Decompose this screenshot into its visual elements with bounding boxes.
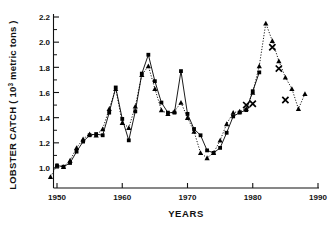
- series-line: [50, 23, 304, 177]
- y-tick-label: 1.4: [39, 114, 51, 123]
- x-axis-label: YEARS: [168, 208, 204, 219]
- series-solid-square-series: [55, 53, 261, 169]
- data-point-triangle: [218, 138, 223, 143]
- data-point-triangle: [276, 58, 281, 63]
- y-axis-label-post: metric tons ): [7, 20, 18, 82]
- data-point-square: [127, 138, 131, 142]
- x-tick-label: 1950: [48, 193, 66, 202]
- y-tick-label: 2.0: [39, 38, 51, 47]
- y-axis-label-pre: LOBSTER CATCH ( 10: [7, 87, 18, 190]
- data-point-triangle: [289, 86, 294, 91]
- data-point-square: [101, 133, 105, 137]
- data-point-square: [218, 146, 222, 150]
- y-axis-ticks: 1.01.21.41.61.82.02.2: [39, 13, 59, 173]
- data-point-triangle: [198, 150, 203, 155]
- data-point-triangle: [133, 104, 138, 109]
- x-tick-label: 1960: [113, 193, 131, 202]
- data-series-layer: [48, 21, 308, 179]
- data-point-square: [179, 69, 183, 73]
- x-tick-label: 1980: [244, 193, 262, 202]
- x-tick-label: 1990: [309, 193, 327, 202]
- y-tick-label: 2.2: [39, 13, 51, 22]
- data-point-triangle: [224, 121, 229, 126]
- data-point-square: [107, 111, 111, 115]
- data-point-cross: [250, 101, 256, 107]
- y-tick-label: 1.0: [39, 164, 51, 173]
- axes-lines: [54, 14, 320, 188]
- data-point-triangle: [231, 110, 236, 115]
- lobster-catch-line-chart: LOBSTER CATCH ( 103 metric tons ) 1.01.2…: [0, 0, 334, 227]
- data-point-cross: [269, 44, 275, 50]
- x-tick-label: 1970: [179, 193, 197, 202]
- data-point-triangle: [159, 108, 164, 113]
- data-point-triangle: [296, 106, 301, 111]
- chart-figure: LOBSTER CATCH ( 103 metric tons ) 1.01.2…: [0, 0, 334, 227]
- data-point-triangle: [257, 63, 262, 68]
- y-tick-label: 1.6: [39, 89, 51, 98]
- data-point-triangle: [146, 63, 151, 68]
- x-axis-ticks: 19501960197019801990: [48, 183, 327, 202]
- data-point-square: [225, 131, 229, 135]
- data-point-square: [146, 53, 150, 57]
- data-point-triangle: [48, 174, 53, 179]
- data-point-cross: [282, 97, 288, 103]
- y-tick-label: 1.2: [39, 139, 51, 148]
- y-axis-label: LOBSTER CATCH ( 103 metric tons ): [7, 20, 19, 189]
- data-point-square: [160, 101, 164, 105]
- series-dotted-triangle-series: [48, 21, 308, 179]
- data-point-triangle: [178, 100, 183, 105]
- data-point-cross: [276, 65, 282, 71]
- data-point-triangle: [263, 21, 268, 26]
- svg-text:LOBSTER CATCH ( 103 metric ton: LOBSTER CATCH ( 103 metric tons ): [7, 20, 19, 189]
- y-tick-label: 1.8: [39, 64, 51, 73]
- data-point-triangle: [270, 38, 275, 43]
- data-point-square: [199, 133, 203, 137]
- data-point-triangle: [283, 75, 288, 80]
- series-line: [57, 55, 259, 167]
- data-point-triangle: [302, 91, 307, 96]
- data-point-square: [153, 79, 157, 83]
- data-point-square: [205, 148, 209, 152]
